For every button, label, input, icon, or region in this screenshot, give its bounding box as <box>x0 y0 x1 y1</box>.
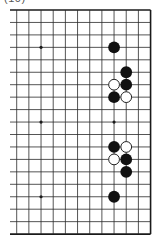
white-stone <box>121 142 132 153</box>
black-stone <box>120 166 132 178</box>
black-stone <box>120 79 132 91</box>
white-stone <box>109 154 120 165</box>
grid-lines <box>10 10 151 234</box>
black-stone <box>108 191 120 203</box>
star-point <box>39 195 42 198</box>
star-point <box>112 120 115 123</box>
black-stone <box>108 91 120 103</box>
black-stone <box>120 154 132 166</box>
white-stone <box>121 92 132 103</box>
white-stone <box>109 79 120 90</box>
go-board <box>0 0 161 241</box>
black-stone <box>108 141 120 153</box>
black-stone <box>108 41 120 53</box>
black-stone <box>120 66 132 78</box>
star-point <box>39 120 42 123</box>
star-point <box>39 46 42 49</box>
